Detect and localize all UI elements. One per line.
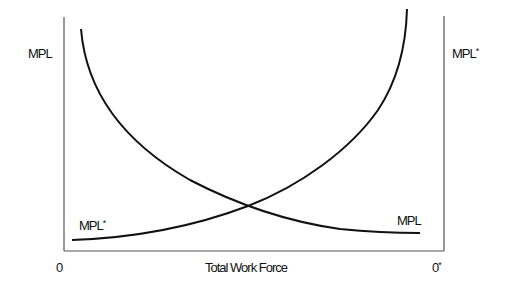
right-axis-label-text: MPL xyxy=(452,46,476,61)
mpl-star-curve-label: MPL* xyxy=(79,219,106,232)
origin-left-text: 0 xyxy=(56,260,62,275)
left-axis-label-text: MPL xyxy=(28,46,52,61)
origin-left-label: 0 xyxy=(56,261,62,274)
x-axis-label: Total Work Force xyxy=(205,261,287,274)
star-marker: * xyxy=(438,260,442,270)
chart-canvas xyxy=(0,0,507,295)
origin-right-label: 0* xyxy=(432,261,442,274)
mpl-curve-label: MPL xyxy=(397,214,421,227)
mpl-star-curve xyxy=(72,9,407,240)
mpl-star-curve-label-text: MPL xyxy=(79,218,103,233)
mpl-curve-label-text: MPL xyxy=(397,213,421,228)
x-axis-label-text: Total Work Force xyxy=(205,260,287,275)
star-marker: * xyxy=(103,218,107,228)
mpl-curve xyxy=(81,29,420,233)
right-axis-label: MPL* xyxy=(452,47,479,60)
star-marker: * xyxy=(476,46,480,56)
left-axis-label: MPL xyxy=(28,47,52,60)
